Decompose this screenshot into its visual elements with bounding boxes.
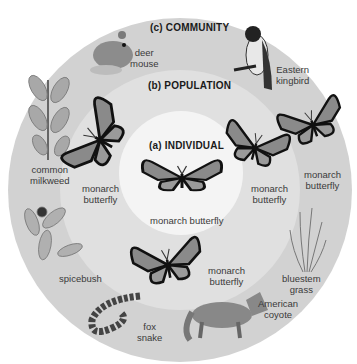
bluestem-grass-label: bluestem grass: [282, 273, 321, 295]
population-heading: (b) POPULATION: [148, 80, 231, 91]
common-milkweed-label: common milkweed: [30, 164, 70, 186]
population-label-1: monarch butterfly: [82, 183, 119, 205]
american-coyote-label: American coyote: [258, 298, 298, 320]
individual-heading: (a) INDIVIDUAL: [149, 140, 224, 151]
population-label-2: monarch butterfly: [251, 183, 288, 205]
population-label-4: monarch butterfly: [208, 265, 245, 287]
spicebush-label: spicebush: [59, 273, 102, 284]
community-heading: (c) COMMUNITY: [150, 22, 229, 33]
ecology-levels-diagram: (c) COMMUNITY (b) POPULATION (a) INDIVID…: [0, 0, 357, 364]
individual-organism-label: monarch butterfly: [150, 215, 223, 226]
eastern-kingbird-label: Eastern kingbird: [276, 64, 309, 86]
deer-mouse-label: deer mouse: [130, 47, 159, 69]
population-label-3: monarch butterfly: [304, 169, 341, 191]
fox-snake-label: fox snake: [137, 321, 162, 343]
